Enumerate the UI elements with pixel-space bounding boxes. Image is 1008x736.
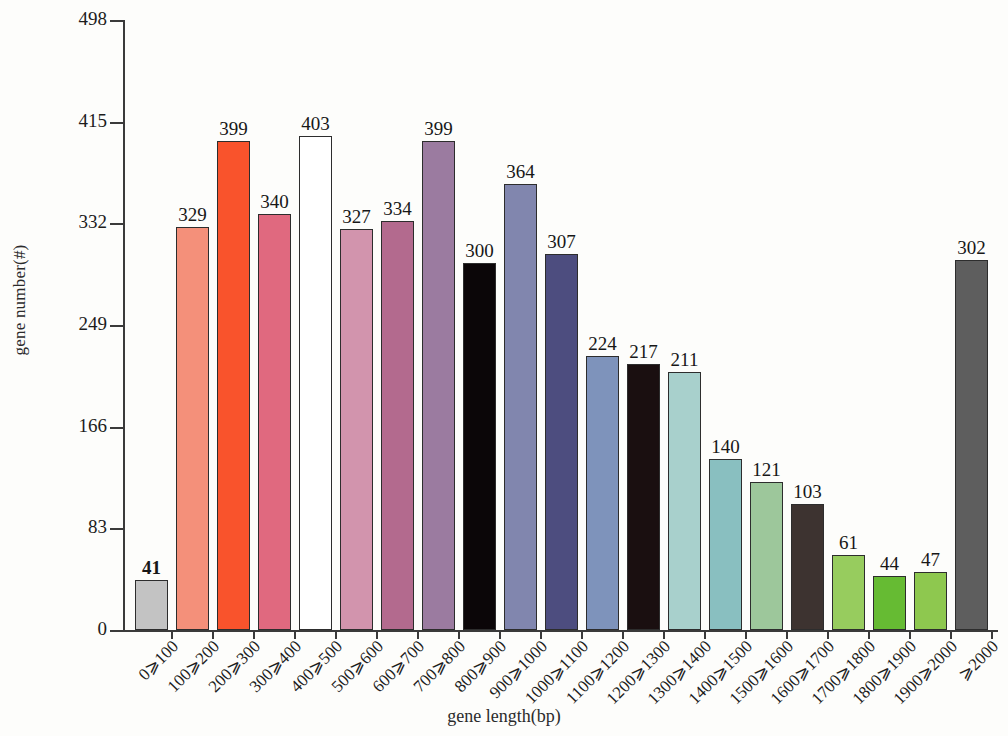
- bar-value-label: 399: [219, 119, 248, 138]
- y-axis-tick-mark: [110, 325, 123, 327]
- bar-value-label: 211: [671, 350, 699, 369]
- bar-value-label: 44: [880, 554, 899, 573]
- x-axis-tick-mark: [950, 632, 952, 639]
- x-axis-tick-mark: [253, 632, 255, 639]
- x-axis-tick-mark: [704, 632, 706, 639]
- bar: 364: [504, 184, 537, 630]
- bar: 224: [586, 356, 619, 630]
- bar-value-label: 364: [506, 162, 535, 181]
- bar-value-label: 340: [260, 192, 289, 211]
- bar: 334: [381, 221, 414, 630]
- bar-value-label: 327: [342, 207, 371, 226]
- x-axis-tick-mark: [499, 632, 501, 639]
- bar-value-label: 300: [465, 241, 494, 260]
- x-axis-tick-mark: [745, 632, 747, 639]
- bar: 329: [176, 227, 209, 630]
- bar-value-label: 334: [383, 199, 412, 218]
- x-axis-tick-mark: [868, 632, 870, 639]
- y-axis-tick-mark: [110, 528, 123, 530]
- x-axis-tick-mark: [622, 632, 624, 639]
- x-axis-tick-mark: [376, 632, 378, 639]
- bar: 121: [750, 482, 783, 630]
- y-axis-tick-label: 0: [43, 618, 107, 640]
- plot-area: 083166249332415498 413293993404033273343…: [123, 20, 998, 632]
- bar: 307: [545, 254, 578, 630]
- x-axis-tick-mark: [212, 632, 214, 639]
- y-axis-tick-label: 498: [43, 8, 107, 30]
- bar: 327: [340, 229, 373, 630]
- y-axis-tick-label: 166: [43, 415, 107, 437]
- bar-value-label: 41: [142, 558, 161, 577]
- x-axis-tick-mark: [294, 632, 296, 639]
- bar-value-label: 140: [711, 437, 740, 456]
- bar: 47: [914, 572, 947, 630]
- bar-value-label: 217: [629, 342, 658, 361]
- bar-value-label: 307: [547, 232, 576, 251]
- bar: 399: [217, 141, 250, 630]
- bar-value-label: 302: [957, 238, 986, 257]
- x-axis-tick-mark: [581, 632, 583, 639]
- bar: 340: [258, 214, 291, 630]
- y-axis-tick-label: 83: [43, 516, 107, 538]
- bar-value-label: 103: [793, 482, 822, 501]
- bar: 403: [299, 136, 332, 630]
- x-axis-tick-mark: [417, 632, 419, 639]
- x-axis-tick-mark: [171, 632, 173, 639]
- y-axis-line: [123, 20, 125, 632]
- x-axis-tick-mark: [909, 632, 911, 639]
- y-axis-tick-mark: [110, 20, 123, 22]
- y-axis-tick-mark: [110, 630, 123, 632]
- y-axis-tick-mark: [110, 122, 123, 124]
- x-axis-tick-label: ⩾2000: [954, 636, 1003, 685]
- y-axis-tick-label: 332: [43, 211, 107, 233]
- bar: 44: [873, 576, 906, 630]
- bar: 41: [135, 580, 168, 630]
- y-axis-tick-label: 249: [43, 313, 107, 335]
- y-axis-tick-mark: [110, 223, 123, 225]
- bar: 140: [709, 459, 742, 630]
- bar-value-label: 61: [839, 533, 858, 552]
- chart-canvas: gene number(#) gene length(bp) 083166249…: [0, 0, 1008, 736]
- x-axis-tick-mark: [458, 632, 460, 639]
- x-axis-tick-mark: [663, 632, 665, 639]
- bar: 300: [463, 263, 496, 630]
- bar: 399: [422, 141, 455, 630]
- x-axis-title: gene length(bp): [0, 706, 1008, 727]
- x-axis-tick-mark: [335, 632, 337, 639]
- x-axis-tick-mark: [991, 632, 993, 639]
- bar: 217: [627, 364, 660, 630]
- bar: 302: [955, 260, 988, 630]
- bar: 211: [668, 372, 701, 630]
- bar: 103: [791, 504, 824, 630]
- y-axis-tick-mark: [110, 427, 123, 429]
- x-axis-tick-mark: [786, 632, 788, 639]
- bar-value-label: 399: [424, 119, 453, 138]
- bar: 61: [832, 555, 865, 630]
- bar-value-label: 329: [178, 205, 207, 224]
- bar-value-label: 403: [301, 114, 330, 133]
- y-axis-title: gene number(#): [10, 200, 30, 400]
- x-axis-tick-mark: [540, 632, 542, 639]
- bar-value-label: 121: [752, 460, 781, 479]
- bar-value-label: 47: [921, 550, 940, 569]
- bar-value-label: 224: [588, 334, 617, 353]
- x-axis-tick-mark: [827, 632, 829, 639]
- y-axis-tick-label: 415: [43, 110, 107, 132]
